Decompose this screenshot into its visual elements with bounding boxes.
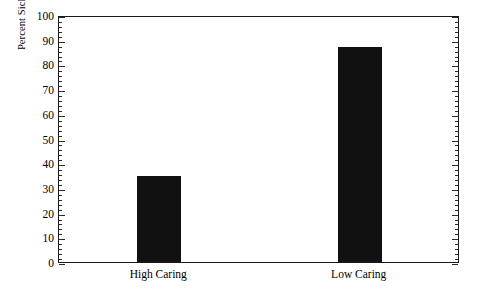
y-tick-minor-left	[59, 150, 62, 151]
y-tick-major-right-30	[452, 190, 458, 191]
y-tick-minor-left	[59, 205, 62, 206]
y-tick-minor-left	[59, 32, 62, 33]
y-tick-minor-right	[455, 155, 458, 156]
y-tick-major-right-70	[452, 91, 458, 92]
y-tick-minor-right	[455, 229, 458, 230]
y-tick-minor-right	[455, 136, 458, 137]
y-tick-minor-left	[59, 106, 62, 107]
y-tick-minor-left	[59, 61, 62, 62]
y-tick-minor-left	[59, 96, 62, 97]
y-tick-major-left-50	[59, 141, 65, 142]
y-tick-minor-left	[59, 22, 62, 23]
y-tick-minor-right	[455, 175, 458, 176]
y-tick-minor-left	[59, 121, 62, 122]
x-tick-label-high-caring: High Caring	[130, 268, 187, 281]
y-tick-minor-left	[59, 52, 62, 53]
y-tick-minor-right	[455, 126, 458, 127]
y-tick-minor-left	[59, 210, 62, 211]
y-tick-minor-right	[455, 249, 458, 250]
y-tick-major-right-80	[452, 66, 458, 67]
y-tick-minor-right	[455, 224, 458, 225]
y-tick-label-30: 30	[10, 183, 54, 195]
y-tick-minor-right	[455, 254, 458, 255]
y-tick-major-right-0	[452, 264, 458, 265]
y-tick-major-left-30	[59, 190, 65, 191]
y-tick-minor-right	[455, 71, 458, 72]
y-tick-minor-right	[455, 200, 458, 201]
y-tick-major-left-70	[59, 91, 65, 92]
y-tick-minor-left	[59, 145, 62, 146]
y-tick-minor-left	[59, 57, 62, 58]
y-tick-minor-right	[455, 76, 458, 77]
y-tick-label-10: 10	[10, 232, 54, 244]
y-tick-minor-right	[455, 195, 458, 196]
y-tick-major-left-0	[59, 264, 65, 265]
y-tick-minor-left	[59, 131, 62, 132]
y-tick-minor-left	[59, 180, 62, 181]
y-tick-minor-right	[455, 96, 458, 97]
y-tick-minor-right	[455, 22, 458, 23]
y-tick-major-right-60	[452, 116, 458, 117]
y-tick-label-0: 0	[10, 257, 54, 269]
y-tick-minor-right	[455, 121, 458, 122]
y-tick-minor-right	[455, 244, 458, 245]
y-tick-major-right-90	[452, 42, 458, 43]
y-tick-minor-left	[59, 71, 62, 72]
y-tick-minor-right	[455, 220, 458, 221]
y-tick-minor-left	[59, 160, 62, 161]
y-tick-minor-left	[59, 185, 62, 186]
y-tick-minor-left	[59, 224, 62, 225]
bar-chart: Percent Sick Subjects (0 to 100) 100 90 …	[0, 0, 478, 304]
y-tick-minor-left	[59, 200, 62, 201]
y-tick-minor-right	[455, 150, 458, 151]
bar-low-caring	[338, 47, 382, 262]
y-tick-minor-right	[455, 27, 458, 28]
y-tick-minor-left	[59, 126, 62, 127]
y-tick-minor-right	[455, 32, 458, 33]
y-tick-minor-left	[59, 254, 62, 255]
y-tick-minor-left	[59, 170, 62, 171]
y-tick-minor-right	[455, 210, 458, 211]
y-tick-major-left-100	[59, 17, 65, 18]
y-tick-minor-left	[59, 81, 62, 82]
y-tick-minor-right	[455, 81, 458, 82]
y-tick-minor-right	[455, 205, 458, 206]
y-tick-minor-right	[455, 61, 458, 62]
y-tick-major-left-90	[59, 42, 65, 43]
y-tick-minor-right	[455, 259, 458, 260]
y-tick-label-20: 20	[10, 208, 54, 220]
y-tick-minor-left	[59, 101, 62, 102]
y-tick-minor-right	[455, 170, 458, 171]
bar-high-caring	[137, 176, 181, 262]
y-tick-minor-left	[59, 136, 62, 137]
y-tick-label-40: 40	[10, 158, 54, 170]
y-tick-minor-left	[59, 229, 62, 230]
y-tick-minor-left	[59, 76, 62, 77]
y-tick-minor-right	[455, 52, 458, 53]
y-tick-major-right-50	[452, 141, 458, 142]
y-tick-major-left-80	[59, 66, 65, 67]
y-tick-minor-right	[455, 111, 458, 112]
y-tick-minor-right	[455, 160, 458, 161]
y-tick-major-left-60	[59, 116, 65, 117]
y-tick-minor-right	[455, 106, 458, 107]
y-tick-minor-right	[455, 86, 458, 87]
y-tick-minor-left	[59, 37, 62, 38]
y-tick-minor-left	[59, 244, 62, 245]
y-tick-minor-right	[455, 47, 458, 48]
y-tick-minor-right	[455, 101, 458, 102]
y-tick-minor-left	[59, 47, 62, 48]
y-axis-title: Percent Sick Subjects (0 to 100)	[14, 0, 30, 76]
y-tick-major-right-20	[452, 215, 458, 216]
y-tick-minor-left	[59, 195, 62, 196]
y-tick-minor-right	[455, 234, 458, 235]
y-tick-major-left-10	[59, 239, 65, 240]
y-tick-label-50: 50	[10, 134, 54, 146]
y-tick-major-right-10	[452, 239, 458, 240]
y-tick-major-right-40	[452, 165, 458, 166]
y-tick-minor-right	[455, 180, 458, 181]
y-tick-minor-left	[59, 234, 62, 235]
y-tick-major-left-40	[59, 165, 65, 166]
y-tick-minor-left	[59, 155, 62, 156]
y-tick-minor-left	[59, 259, 62, 260]
